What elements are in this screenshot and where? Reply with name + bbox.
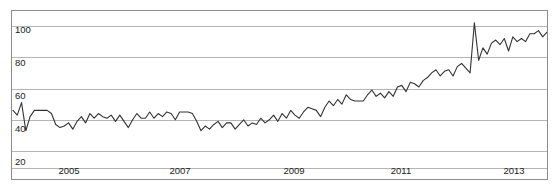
data-line-series: [13, 23, 547, 131]
ytick-label-60: 60: [15, 91, 26, 101]
ytick-label-100: 100: [15, 25, 31, 35]
xtick-label-2009: 2009: [283, 166, 304, 176]
chart-container: 100 80 60 40 20 2005 2007 2009 2011 2013: [0, 0, 555, 191]
line-chart-svg: [12, 11, 547, 179]
ytick-label-20: 20: [15, 157, 26, 167]
plot-area: 100 80 60 40 20 2005 2007 2009 2011 2013: [12, 11, 547, 179]
xtick-label-2013: 2013: [503, 166, 524, 176]
xtick-label-2011: 2011: [391, 166, 411, 176]
chart-frame: 100 80 60 40 20 2005 2007 2009 2011 2013: [11, 10, 548, 180]
xtick-label-2005: 2005: [58, 166, 79, 176]
ytick-label-80: 80: [15, 58, 26, 68]
ytick-label-40: 40: [15, 124, 26, 134]
gridlines: [12, 27, 547, 152]
xtick-label-2007: 2007: [169, 166, 190, 176]
